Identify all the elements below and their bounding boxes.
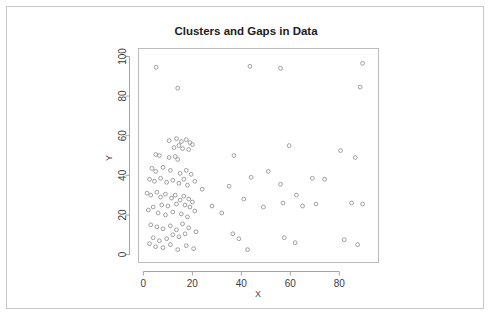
data-point [178, 198, 182, 202]
data-point [293, 241, 297, 245]
data-point [177, 235, 181, 239]
data-point [231, 232, 235, 236]
data-point [146, 208, 150, 212]
data-point [282, 236, 286, 240]
data-point [361, 202, 365, 206]
data-point [155, 225, 159, 229]
y-axis-title: Y [104, 155, 114, 161]
data-point [287, 144, 291, 148]
data-point [176, 158, 180, 162]
data-point [246, 248, 250, 252]
data-point [157, 239, 161, 243]
data-point [157, 154, 161, 158]
y-tick-label: 0 [117, 251, 128, 257]
data-point [184, 244, 188, 248]
data-point [168, 168, 172, 172]
data-point [145, 191, 149, 195]
data-point [232, 154, 236, 158]
data-point [281, 201, 285, 205]
data-point [150, 166, 154, 170]
data-point [182, 194, 186, 198]
data-point [151, 205, 155, 209]
data-point [182, 177, 186, 181]
data-point [187, 197, 191, 201]
data-point [176, 86, 180, 90]
data-point [175, 202, 179, 206]
y-tick-label: 100 [117, 48, 128, 65]
data-point [175, 228, 179, 232]
y-axis: 020406080100 [117, 48, 130, 258]
data-point [279, 66, 283, 70]
data-points-layer [145, 61, 364, 251]
data-point [183, 232, 187, 236]
scatter-plot-canvas: Clusters and Gaps in Data 020406080 0204… [0, 0, 492, 317]
data-point [242, 197, 246, 201]
data-point [361, 61, 365, 65]
data-point [160, 203, 164, 207]
data-point [186, 183, 190, 187]
data-point [156, 211, 160, 215]
x-tick-label: 80 [334, 278, 346, 289]
data-point [193, 209, 197, 213]
data-point [350, 201, 354, 205]
y-tick-label: 80 [117, 90, 128, 102]
data-point [164, 192, 168, 196]
data-point [179, 140, 183, 144]
data-point [177, 181, 181, 185]
data-point [193, 179, 197, 183]
data-point [151, 236, 155, 240]
data-point [227, 184, 231, 188]
data-point [175, 137, 179, 141]
data-point [188, 205, 192, 209]
data-point [266, 169, 270, 173]
data-point [172, 146, 176, 150]
data-point [173, 193, 177, 197]
data-point [181, 222, 185, 226]
x-axis: 020406080 [141, 272, 346, 289]
data-point [301, 204, 305, 208]
data-point [184, 168, 188, 172]
data-point [167, 139, 171, 143]
data-point [184, 138, 188, 142]
data-point [149, 193, 153, 197]
data-point [310, 176, 314, 180]
data-point [161, 246, 165, 250]
data-point [168, 243, 172, 247]
y-tick-label: 40 [117, 169, 128, 181]
data-point [249, 175, 253, 179]
data-point [279, 182, 283, 186]
data-point [165, 237, 169, 241]
data-point [159, 195, 163, 199]
data-point [155, 190, 159, 194]
data-point [358, 85, 362, 89]
data-point [178, 171, 182, 175]
data-point [181, 147, 185, 151]
data-point [262, 205, 266, 209]
data-point [189, 172, 193, 176]
data-point [168, 224, 172, 228]
data-point [323, 177, 327, 181]
data-point [149, 223, 153, 227]
data-point [186, 215, 190, 219]
data-point [166, 204, 170, 208]
data-point [161, 165, 165, 169]
data-point [187, 226, 191, 230]
x-axis-title: X [255, 289, 261, 299]
data-point [171, 178, 175, 182]
data-point [154, 153, 158, 157]
data-point [167, 156, 171, 160]
data-point [154, 65, 158, 69]
data-point [171, 210, 175, 214]
data-point [194, 230, 198, 234]
data-point [200, 187, 204, 191]
data-point [154, 169, 158, 173]
x-tick-label: 0 [141, 278, 147, 289]
data-point [154, 245, 158, 249]
y-tick-label: 20 [117, 209, 128, 221]
data-point [177, 144, 181, 148]
data-point [295, 193, 299, 197]
x-tick-label: 60 [285, 278, 297, 289]
x-tick-label: 40 [236, 278, 248, 289]
data-point [356, 243, 360, 247]
data-point [342, 238, 346, 242]
